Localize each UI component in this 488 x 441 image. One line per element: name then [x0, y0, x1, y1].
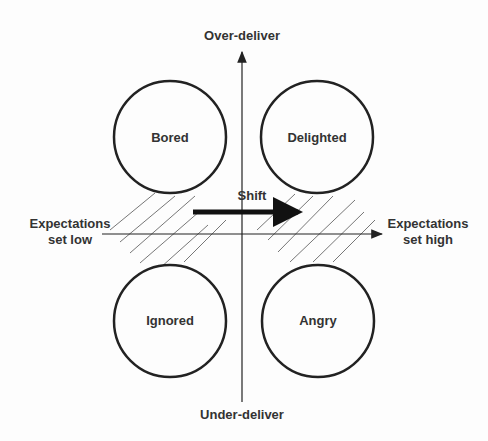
hatched-region-left	[110, 193, 226, 268]
axis-label-left: Expectations set low	[20, 216, 120, 248]
axis-label-top: Over-deliver	[192, 28, 292, 44]
quadrant-label-angry: Angry	[268, 313, 368, 329]
axis-label-left-line2: set low	[20, 232, 120, 248]
axis-label-left-line1: Expectations	[20, 216, 120, 232]
shift-label: Shift	[222, 188, 282, 204]
axis-label-bottom: Under-deliver	[186, 407, 298, 423]
axis-label-right: Expectations set high	[378, 216, 478, 248]
quadrant-label-ignored: Ignored	[120, 313, 220, 329]
quadrant-label-delighted: Delighted	[267, 130, 367, 146]
axis-label-right-line1: Expectations	[378, 216, 478, 232]
hatched-region-right	[257, 194, 375, 262]
axis-label-right-line2: set high	[378, 232, 478, 248]
quadrant-label-bored: Bored	[120, 130, 220, 146]
